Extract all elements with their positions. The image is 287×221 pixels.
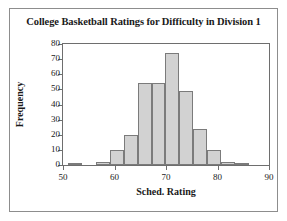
y-tick-label: 10	[51, 144, 60, 154]
chart-title: College Basketball Ratings for Difficult…	[14, 16, 273, 27]
x-tick-mark	[63, 165, 64, 170]
histogram-bar	[193, 129, 207, 165]
y-tick-label: 80	[51, 38, 60, 48]
bars-layer	[63, 44, 269, 165]
x-tick-label: 70	[162, 172, 171, 182]
histogram-bar	[207, 150, 221, 165]
y-tick-label: 70	[51, 53, 60, 63]
x-axis-label: Sched. Rating	[62, 186, 270, 197]
y-tick-label: 20	[51, 129, 60, 139]
x-tick-label: 60	[110, 172, 119, 182]
y-tick-label: 0	[56, 159, 61, 169]
histogram-bar	[165, 53, 179, 165]
histogram-bar	[124, 135, 138, 165]
x-tick-mark	[166, 165, 167, 170]
histogram-bar	[152, 83, 166, 165]
y-tick-label: 60	[51, 68, 60, 78]
histogram-bar	[68, 163, 82, 165]
histogram-figure: College Basketball Ratings for Difficult…	[0, 0, 287, 221]
y-tick-label: 40	[51, 99, 60, 109]
histogram-bar	[221, 162, 235, 165]
x-tick-label: 50	[59, 172, 68, 182]
histogram-bar	[235, 163, 249, 165]
x-tick-mark	[269, 165, 270, 170]
histogram-bar	[96, 162, 110, 165]
y-axis-label-container: Frequency	[26, 43, 40, 166]
x-tick-label: 90	[265, 172, 274, 182]
histogram-bar	[138, 83, 152, 165]
y-axis-label: Frequency	[14, 43, 28, 166]
x-tick-label: 80	[213, 172, 222, 182]
histogram-bar	[179, 91, 193, 165]
y-tick-label: 30	[51, 114, 60, 124]
x-tick-mark	[218, 165, 219, 170]
y-tick-label: 50	[51, 83, 60, 93]
plot-area: 01020304050607080 5060708090	[62, 43, 270, 166]
x-tick-mark	[115, 165, 116, 170]
histogram-bar	[110, 150, 124, 165]
